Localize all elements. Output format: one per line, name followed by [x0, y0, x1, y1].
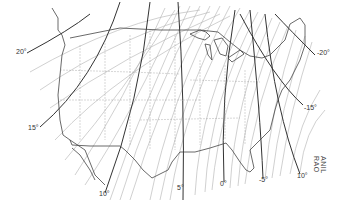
label-10-west: 10°: [99, 190, 110, 197]
label-15: 15°: [28, 124, 39, 131]
major-isogonic-lines: [27, 2, 315, 200]
label-neg15: -15°: [304, 104, 317, 111]
label-neg5: -5°: [259, 176, 268, 183]
label-neg20: -20°: [317, 49, 330, 56]
label-10-east: 10°: [297, 172, 308, 179]
credit-text: ANIL RAO: [313, 156, 327, 173]
map-graphic: [0, 0, 342, 209]
label-20: 20°: [16, 48, 27, 55]
declination-map: 20° 15° 10° 5° 0° -5° 10° -15° -20° ANIL…: [0, 0, 342, 209]
label-0: 0°: [220, 180, 227, 187]
great-lakes: [190, 30, 244, 62]
minor-isogonic-lines: [30, 6, 325, 200]
label-5: 5°: [177, 184, 184, 191]
